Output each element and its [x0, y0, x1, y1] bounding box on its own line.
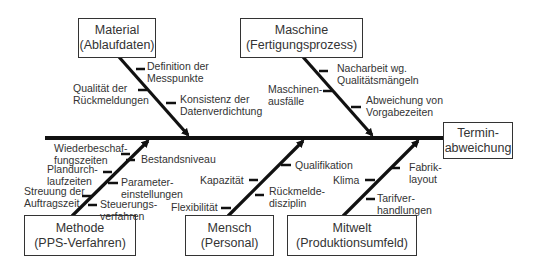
cause-label: Plandurch-laufzeiten: [47, 164, 98, 187]
cause-label: Kapazität: [200, 175, 244, 187]
cause-label: Definition derMesspunkte: [147, 61, 209, 84]
category-title: Mensch: [208, 221, 252, 236]
category-maschine: Maschine (Fertigungsprozess): [240, 18, 363, 58]
cause-label: Nacharbeit wg.Qualitätsmängeln: [337, 63, 419, 86]
cause-label: Konsistenz derDatenverdichtung: [180, 94, 262, 117]
effect-line1: Termin-: [457, 126, 499, 141]
category-title: Mitwelt: [333, 221, 372, 236]
cause-label: Tarifver-handlungen: [377, 193, 432, 216]
cause-label: Abweichung vonVorgabezeiten: [366, 95, 443, 118]
category-mensch: Mensch (Personal): [185, 215, 274, 256]
cause-label: Qualität derRückmeldungen: [73, 83, 149, 106]
cause-label: Qualifikation: [295, 160, 353, 172]
category-subtitle: (Personal): [201, 236, 259, 251]
category-subtitle: (PPS-Verfahren): [34, 236, 126, 251]
cause-label: Steuerungs-verfahren: [100, 199, 157, 222]
category-title: Methode: [56, 221, 105, 236]
cause-label: Klima: [333, 175, 359, 187]
cause-label: Fabrik-layout: [409, 162, 442, 185]
effect-box: Termin- abweichung: [443, 122, 513, 159]
category-subtitle: (Produktionsumfeld): [296, 236, 408, 251]
effect-line2: abweichung: [445, 141, 512, 156]
category-title: Material: [95, 23, 139, 38]
cause-label: Streuung derAuftragszeit: [24, 186, 85, 209]
cause-label: Flexibilität: [171, 202, 218, 214]
cause-label: Parameter-einstellungen: [121, 177, 183, 200]
cause-label: Rückmelde-disziplin: [269, 186, 325, 209]
cause-label: Bestandsniveau: [141, 154, 216, 166]
cause-label: Maschinen-ausfälle: [268, 84, 322, 107]
category-subtitle: (Ablaufdaten): [79, 38, 154, 53]
category-mitwelt: Mitwelt (Produktionsumfeld): [287, 215, 417, 256]
category-title: Maschine: [275, 23, 329, 38]
category-subtitle: (Fertigungsprozess): [246, 38, 357, 53]
category-material: Material (Ablaufdaten): [78, 18, 156, 58]
